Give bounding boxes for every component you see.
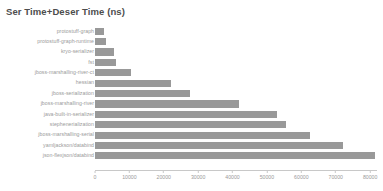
x-tick-mark bbox=[94, 171, 95, 173]
x-tick-label: 10000 bbox=[122, 174, 136, 181]
bar bbox=[95, 132, 310, 139]
x-tick-mark bbox=[129, 171, 130, 173]
bar-row: jboss-marshalling-serial bbox=[0, 130, 383, 140]
x-tick: 60000 bbox=[294, 171, 308, 181]
x-tick-label: 70000 bbox=[329, 174, 343, 181]
x-tick: 70000 bbox=[329, 171, 343, 181]
bar-row: protostuff-graph-runtime bbox=[0, 36, 383, 46]
x-tick-mark bbox=[232, 171, 233, 173]
category-label: jboss-marshalling-river-ct bbox=[0, 68, 94, 77]
bar-track bbox=[95, 69, 377, 76]
bar-chart: Ser Time+Deser Time (ns) protostuff-grap… bbox=[0, 0, 383, 191]
x-axis-ticks: 0100002000030000400005000060000700008000… bbox=[0, 171, 383, 185]
bar-track bbox=[95, 59, 377, 66]
bar bbox=[95, 80, 171, 87]
bar-row: java-built-in-serializer bbox=[0, 109, 383, 119]
bar-row: hessian bbox=[0, 78, 383, 88]
bar-track bbox=[95, 48, 377, 55]
bar-row: protostuff-graph bbox=[0, 26, 383, 36]
bar-row: json-flexjson/databind bbox=[0, 151, 383, 161]
x-tick-mark bbox=[370, 171, 371, 173]
bar bbox=[95, 121, 286, 128]
bar bbox=[95, 142, 343, 149]
bar-row: yamljackson/databind bbox=[0, 140, 383, 150]
bar-row: jboss-marshalling-river bbox=[0, 99, 383, 109]
bar bbox=[95, 48, 114, 55]
x-tick-label: 60000 bbox=[294, 174, 308, 181]
bar-row: jboss-serialization bbox=[0, 88, 383, 98]
bar-track bbox=[95, 28, 377, 35]
x-tick-label: 50000 bbox=[260, 174, 274, 181]
x-tick-mark bbox=[335, 171, 336, 173]
x-tick-mark bbox=[266, 171, 267, 173]
bar-track bbox=[95, 132, 377, 139]
bar bbox=[95, 59, 116, 66]
x-tick-mark bbox=[163, 171, 164, 173]
bar-track bbox=[95, 111, 377, 118]
category-label: protostuff-graph-runtime bbox=[0, 37, 94, 46]
category-label: hessian bbox=[0, 78, 94, 87]
category-label: json-flexjson/databind bbox=[0, 151, 94, 160]
bar-track bbox=[95, 38, 377, 45]
x-tick-label: 80000 bbox=[363, 174, 377, 181]
x-tick-mark bbox=[301, 171, 302, 173]
bar-track bbox=[95, 100, 377, 107]
bar-row: stephenerialization bbox=[0, 120, 383, 130]
x-tick: 30000 bbox=[191, 171, 205, 181]
bar bbox=[95, 28, 104, 35]
x-tick-label: 30000 bbox=[191, 174, 205, 181]
x-tick: 10000 bbox=[122, 171, 136, 181]
category-label: kryo-serializer bbox=[0, 47, 94, 56]
x-tick: 0 bbox=[94, 171, 97, 181]
category-label: yamljackson/databind bbox=[0, 141, 94, 150]
x-tick-label: 40000 bbox=[225, 174, 239, 181]
bar bbox=[95, 100, 239, 107]
x-tick: 40000 bbox=[225, 171, 239, 181]
category-label: jboss-marshalling-serial bbox=[0, 130, 94, 139]
bar bbox=[95, 38, 106, 45]
bar-track bbox=[95, 152, 377, 159]
bar-track bbox=[95, 142, 377, 149]
category-label: protostuff-graph bbox=[0, 27, 94, 36]
bar-track bbox=[95, 80, 377, 87]
bar bbox=[95, 69, 131, 76]
bar bbox=[95, 152, 375, 159]
category-label: jboss-marshalling-river bbox=[0, 99, 94, 108]
bar-row: jboss-marshalling-river-ct bbox=[0, 68, 383, 78]
category-label: stephenerialization bbox=[0, 120, 94, 129]
x-tick: 20000 bbox=[157, 171, 171, 181]
x-tick: 50000 bbox=[260, 171, 274, 181]
x-tick-label: 20000 bbox=[157, 174, 171, 181]
category-label: java-built-in-serializer bbox=[0, 110, 94, 119]
bar-track bbox=[95, 121, 377, 128]
bar-track bbox=[95, 90, 377, 97]
bar bbox=[95, 111, 277, 118]
x-tick-mark bbox=[198, 171, 199, 173]
plot-area: protostuff-graphprotostuff-graph-runtime… bbox=[0, 26, 383, 170]
category-label: jboss-serialization bbox=[0, 89, 94, 98]
x-tick-label: 0 bbox=[94, 174, 97, 181]
bar-row: kryo-serializer bbox=[0, 47, 383, 57]
category-label: fst bbox=[0, 58, 94, 67]
x-tick: 80000 bbox=[363, 171, 377, 181]
chart-title: Ser Time+Deser Time (ns) bbox=[6, 6, 125, 17]
bar bbox=[95, 90, 190, 97]
bar-row: fst bbox=[0, 57, 383, 67]
